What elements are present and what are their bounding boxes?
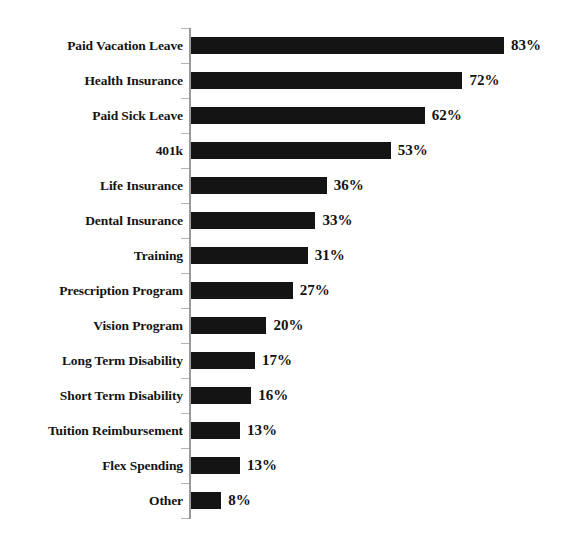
bar-value-label: 8% xyxy=(228,492,251,509)
bar-value-label: 83% xyxy=(511,37,541,54)
bar xyxy=(191,282,293,299)
bar xyxy=(191,352,255,369)
bar xyxy=(191,457,240,474)
bar xyxy=(191,212,315,229)
bar-row: Vision Program20% xyxy=(0,308,568,343)
bar-row: Paid Vacation Leave83% xyxy=(0,28,568,63)
bar xyxy=(191,422,240,439)
bar-category-label: Flex Spending xyxy=(0,448,183,483)
bar-value-label: 31% xyxy=(315,247,345,264)
bar-category-label: Long Term Disability xyxy=(0,343,183,378)
bar-category-label: 401k xyxy=(0,133,183,168)
bar-row: Dental Insurance33% xyxy=(0,203,568,238)
bar-value-label: 13% xyxy=(247,422,277,439)
bar-value-label: 20% xyxy=(273,317,303,334)
bar-row: Flex Spending13% xyxy=(0,448,568,483)
bar-row: Paid Sick Leave62% xyxy=(0,98,568,133)
bar-row: Tuition Reimbursement13% xyxy=(0,413,568,448)
bar xyxy=(191,37,504,54)
bar-row: Prescription Program27% xyxy=(0,273,568,308)
bar-value-label: 33% xyxy=(322,212,352,229)
bar-value-label: 72% xyxy=(469,72,499,89)
bar-row: Life Insurance36% xyxy=(0,168,568,203)
bar-value-label: 17% xyxy=(262,352,292,369)
bar-row: Long Term Disability17% xyxy=(0,343,568,378)
bar-category-label: Dental Insurance xyxy=(0,203,183,238)
bar-category-label: Prescription Program xyxy=(0,273,183,308)
bar-row: Short Term Disability16% xyxy=(0,378,568,413)
bar-category-label: Tuition Reimbursement xyxy=(0,413,183,448)
bar-category-label: Training xyxy=(0,238,183,273)
bar-category-label: Health Insurance xyxy=(0,63,183,98)
bar xyxy=(191,387,251,404)
bar-category-label: Other xyxy=(0,483,183,518)
bar-value-label: 36% xyxy=(334,177,364,194)
bar xyxy=(191,317,266,334)
bar xyxy=(191,107,425,124)
bar-value-label: 53% xyxy=(398,142,428,159)
bar-category-label: Short Term Disability xyxy=(0,378,183,413)
bar xyxy=(191,177,327,194)
bar-chart-plot-area: Paid Vacation Leave83%Health Insurance72… xyxy=(0,0,568,544)
bar-row: Other8% xyxy=(0,483,568,518)
bar-row: 401k53% xyxy=(0,133,568,168)
bar-value-label: 13% xyxy=(247,457,277,474)
bar-value-label: 16% xyxy=(258,387,288,404)
bar xyxy=(191,247,308,264)
bar-category-label: Vision Program xyxy=(0,308,183,343)
bar-row: Health Insurance72% xyxy=(0,63,568,98)
bar-value-label: 62% xyxy=(432,107,462,124)
bar-category-label: Paid Sick Leave xyxy=(0,98,183,133)
bar xyxy=(191,142,391,159)
bar xyxy=(191,72,462,89)
axis-tick xyxy=(181,518,189,519)
bar-category-label: Life Insurance xyxy=(0,168,183,203)
bar-value-label: 27% xyxy=(300,282,330,299)
bar-row: Training31% xyxy=(0,238,568,273)
bar-category-label: Paid Vacation Leave xyxy=(0,28,183,63)
chart-page: Paid Vacation Leave83%Health Insurance72… xyxy=(0,0,568,544)
bar xyxy=(191,492,221,509)
